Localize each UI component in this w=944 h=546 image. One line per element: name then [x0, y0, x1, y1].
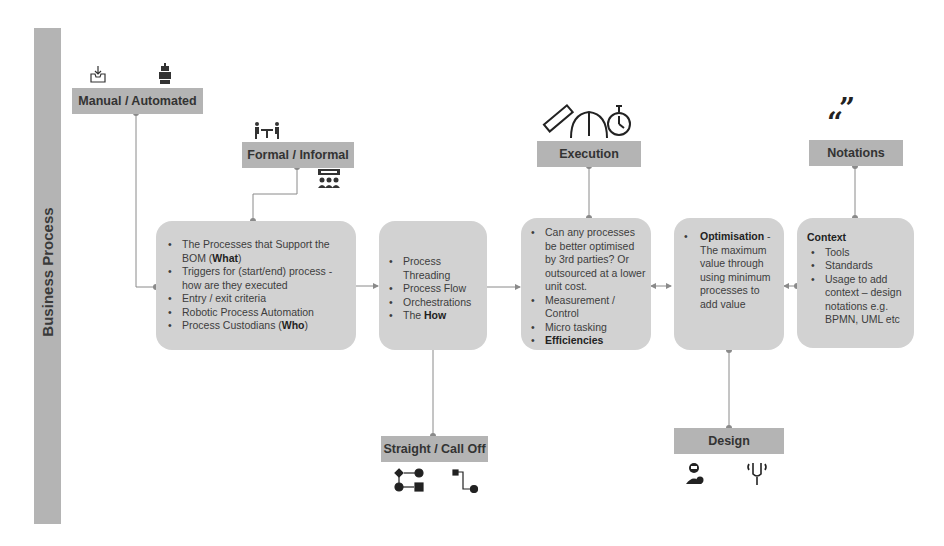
card-optimisation: Optimisation - The maximum value through… — [674, 218, 784, 350]
flow-sequence-icon — [394, 467, 426, 493]
list-item: Standards — [807, 259, 908, 273]
list-item: Tools — [807, 246, 908, 260]
list-item: Usage to add context – design notations … — [807, 273, 908, 327]
sidebar-title: Business Process — [39, 207, 56, 336]
meeting-icon — [253, 121, 281, 139]
card-execution: Can any processes be better optimised by… — [521, 218, 651, 350]
quote-open-icon: “ — [827, 116, 843, 130]
list-item: Micro tasking — [527, 321, 647, 335]
list-item: Triggers for (start/end) process - how a… — [164, 265, 348, 292]
list-item: The Processes that Support the BOM (What… — [164, 238, 348, 265]
list-item: Measurement / Control — [527, 294, 647, 321]
robot-icon — [157, 63, 173, 85]
card-context: Context Tools Standards Usage to add con… — [797, 218, 914, 348]
list-item: Orchestrations — [385, 296, 483, 310]
tuning-fork-icon — [746, 460, 768, 486]
list-item: Entry / exit criteria — [164, 292, 348, 306]
list-item: Process Custodians (Who) — [164, 319, 348, 333]
list-item: Robotic Process Automation — [164, 306, 348, 320]
formal-informal-label: Formal / Informal — [242, 142, 354, 168]
context-title: Context — [807, 231, 908, 245]
list-item: Efficiencies — [527, 334, 647, 348]
execution-label: Execution — [537, 141, 641, 167]
list-item: Process Flow — [385, 282, 483, 296]
inbox-download-icon — [88, 64, 108, 84]
card-how: Process Threading Process Flow Orchestra… — [379, 221, 487, 350]
card-what: The Processes that Support the BOM (What… — [156, 221, 356, 350]
manual-automated-label: Manual / Automated — [72, 88, 203, 114]
list-item: Process Threading — [385, 255, 483, 282]
list-item: Can any processes be better optimised by… — [527, 226, 647, 294]
notations-label: Notations — [809, 140, 903, 166]
designer-icon — [683, 461, 705, 485]
flow-calloff-icon — [452, 469, 480, 493]
list-item: Optimisation - The maximum value through… — [680, 230, 778, 311]
presentation-audience-icon — [316, 169, 342, 189]
list-item: The How — [385, 309, 483, 323]
ruler-gauge-stopwatch-icon — [541, 100, 631, 138]
design-label: Design — [674, 428, 784, 454]
straight-call-off-label: Straight / Call Off — [381, 436, 488, 462]
